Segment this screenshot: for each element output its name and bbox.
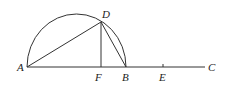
label-d: D <box>101 8 110 20</box>
geometry-diagram: A D F B E C <box>0 0 225 89</box>
label-c: C <box>208 61 216 73</box>
segment-db <box>101 22 126 67</box>
label-b: B <box>122 71 129 83</box>
label-a: A <box>16 61 24 73</box>
label-e: E <box>158 71 166 83</box>
label-f: F <box>94 71 102 83</box>
segment-ad <box>27 22 101 67</box>
